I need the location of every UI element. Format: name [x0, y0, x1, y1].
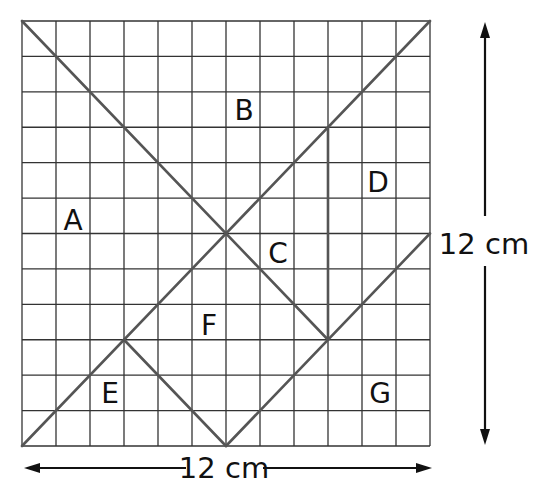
cut-line	[22, 21, 328, 340]
piece-label-b: B	[234, 94, 253, 127]
arrow-right-icon	[416, 463, 432, 473]
cut-line	[124, 340, 226, 446]
piece-label-a: A	[63, 204, 82, 237]
piece-label-g: G	[369, 377, 391, 410]
piece-label-f: F	[201, 309, 217, 342]
tangram-grid-diagram: ABCDEFG 12 cm 12 cm	[0, 0, 544, 492]
width-dimension-arrow: 12 cm	[24, 451, 432, 485]
piece-label-d: D	[367, 166, 389, 199]
piece-labels: ABCDEFG	[63, 94, 390, 410]
arrow-left-icon	[24, 463, 40, 473]
height-label: 12 cm	[439, 227, 529, 261]
piece-label-c: C	[268, 237, 288, 270]
width-label: 12 cm	[179, 451, 269, 485]
arrow-down-icon	[480, 429, 490, 445]
piece-label-e: E	[101, 377, 119, 410]
arrow-up-icon	[480, 22, 490, 38]
height-dimension-arrow: 12 cm	[439, 22, 529, 445]
